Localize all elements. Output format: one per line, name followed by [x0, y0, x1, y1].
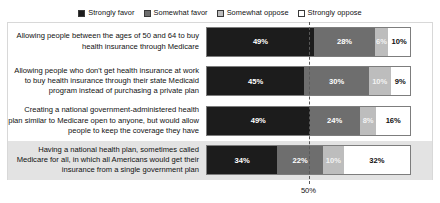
segment-strongly-oppose-2: 16%	[376, 107, 409, 135]
legend-swatch-strongly-oppose	[298, 10, 305, 17]
table-row: Having a national health plan, sometimes…	[8, 141, 432, 181]
row-label-1: Allowing people who don't get health ins…	[8, 66, 206, 97]
segment-somewhat-oppose-2: 8%	[360, 107, 377, 135]
segment-somewhat-oppose-1: 10%	[369, 67, 391, 95]
segment-strongly-oppose-0: 10%	[388, 28, 410, 56]
chart-rows: Allowing people between the ages of 50 a…	[0, 22, 440, 180]
segment-strongly-favor-0: 49%	[207, 28, 314, 56]
legend-item-strongly-favor: Strongly favor	[78, 9, 134, 17]
segment-somewhat-oppose-0: 6%	[375, 28, 388, 56]
legend-label-strongly-favor: Strongly favor	[88, 9, 134, 17]
segment-strongly-oppose-1: 9%	[391, 67, 410, 95]
table-row: Allowing people who don't get health ins…	[8, 62, 432, 102]
segment-value-somewhat-oppose-3: 10%	[326, 156, 341, 165]
segment-value-somewhat-favor-0: 28%	[337, 37, 352, 46]
axis-tick-50: 50%	[301, 186, 316, 195]
legend-swatch-somewhat-favor	[144, 10, 151, 17]
segment-value-somewhat-favor-3: 22%	[293, 156, 308, 165]
row-label-2: Creating a national government-administe…	[8, 105, 206, 136]
segment-value-strongly-favor-0: 49%	[253, 37, 268, 46]
stacked-bar-chart: Strongly favor Somewhat favor Somewhat o…	[0, 0, 440, 203]
legend-label-somewhat-favor: Somewhat favor	[154, 9, 208, 17]
segment-somewhat-oppose-3: 10%	[323, 146, 344, 174]
legend-swatch-strongly-favor	[78, 10, 85, 17]
segment-value-somewhat-oppose-0: 6%	[376, 37, 387, 46]
segment-value-strongly-oppose-1: 9%	[395, 77, 406, 86]
legend-item-somewhat-oppose: Somewhat oppose	[217, 9, 289, 17]
legend-swatch-somewhat-oppose	[217, 10, 224, 17]
segment-value-somewhat-favor-1: 30%	[329, 77, 344, 86]
table-row: Allowing people between the ages of 50 a…	[8, 22, 432, 62]
segment-value-strongly-favor-3: 34%	[235, 156, 250, 165]
segment-somewhat-favor-1: 30%	[304, 67, 369, 95]
segment-strongly-favor-2: 49%	[207, 107, 310, 135]
segment-strongly-oppose-3: 32%	[344, 146, 410, 174]
segment-value-somewhat-oppose-1: 10%	[372, 77, 387, 86]
segment-value-strongly-favor-1: 45%	[248, 77, 263, 86]
segment-value-strongly-oppose-3: 32%	[369, 156, 384, 165]
segment-value-strongly-favor-2: 49%	[251, 116, 266, 125]
legend-label-strongly-oppose: Strongly oppose	[308, 9, 362, 17]
chart-legend: Strongly favor Somewhat favor Somewhat o…	[0, 6, 440, 20]
segment-value-strongly-oppose-2: 16%	[386, 116, 401, 125]
row-label-3: Having a national health plan, sometimes…	[8, 145, 206, 176]
segment-somewhat-favor-0: 28%	[314, 28, 375, 56]
segment-value-strongly-oppose-0: 10%	[391, 37, 406, 46]
segment-somewhat-favor-2: 24%	[310, 107, 360, 135]
legend-item-somewhat-favor: Somewhat favor	[144, 9, 208, 17]
segment-strongly-favor-1: 45%	[207, 67, 304, 95]
legend-label-somewhat-oppose: Somewhat oppose	[227, 9, 289, 17]
legend-item-strongly-oppose: Strongly oppose	[298, 9, 362, 17]
segment-value-somewhat-oppose-2: 8%	[363, 116, 374, 125]
table-row: Creating a national government-administe…	[8, 101, 432, 141]
segment-value-somewhat-favor-2: 24%	[327, 116, 342, 125]
segment-somewhat-favor-3: 22%	[277, 146, 323, 174]
segment-strongly-favor-3: 34%	[207, 146, 277, 174]
row-label-0: Allowing people between the ages of 50 a…	[8, 31, 206, 52]
reference-line-50	[309, 22, 310, 184]
